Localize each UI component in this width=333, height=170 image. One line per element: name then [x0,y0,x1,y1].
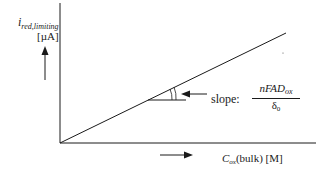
arrow-up-icon [42,46,49,55]
arrow-right-icon [184,152,193,159]
angle-arc-icon [174,87,176,100]
slope-denominator: δ0 [252,98,300,115]
slope-numerator: nFADox [252,82,300,98]
y-axis-unit: [µA] [37,30,59,42]
slope-label: slope: [211,92,240,107]
slope-fraction: nFADox δ0 [252,82,300,115]
angle-arc-icon [170,89,172,100]
stray-mark [282,52,283,53]
x-axis-label: Cox(bulk) [M] [222,152,283,166]
arrow-head-icon [181,91,190,98]
